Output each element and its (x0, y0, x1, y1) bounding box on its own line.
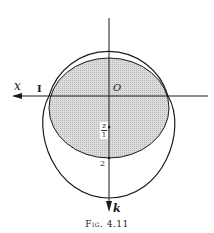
x-axis-label: x (14, 80, 21, 92)
figure-caption: Fig. 4.11 (0, 219, 214, 229)
point-label: 2 (100, 160, 105, 168)
origin-label: O (113, 83, 121, 93)
intersection-label: I (37, 84, 42, 94)
k-axis-arrow-icon (106, 201, 112, 212)
fraction-label: z 1 (100, 122, 108, 139)
fraction-numerator: z (102, 122, 106, 130)
x-axis-arrow-icon (12, 93, 22, 99)
figure-diagram (0, 0, 214, 233)
fraction-denominator: 1 (102, 131, 106, 139)
k-axis-label: k (113, 203, 121, 214)
point-center (108, 126, 111, 129)
point-bottom-shade (108, 157, 111, 160)
